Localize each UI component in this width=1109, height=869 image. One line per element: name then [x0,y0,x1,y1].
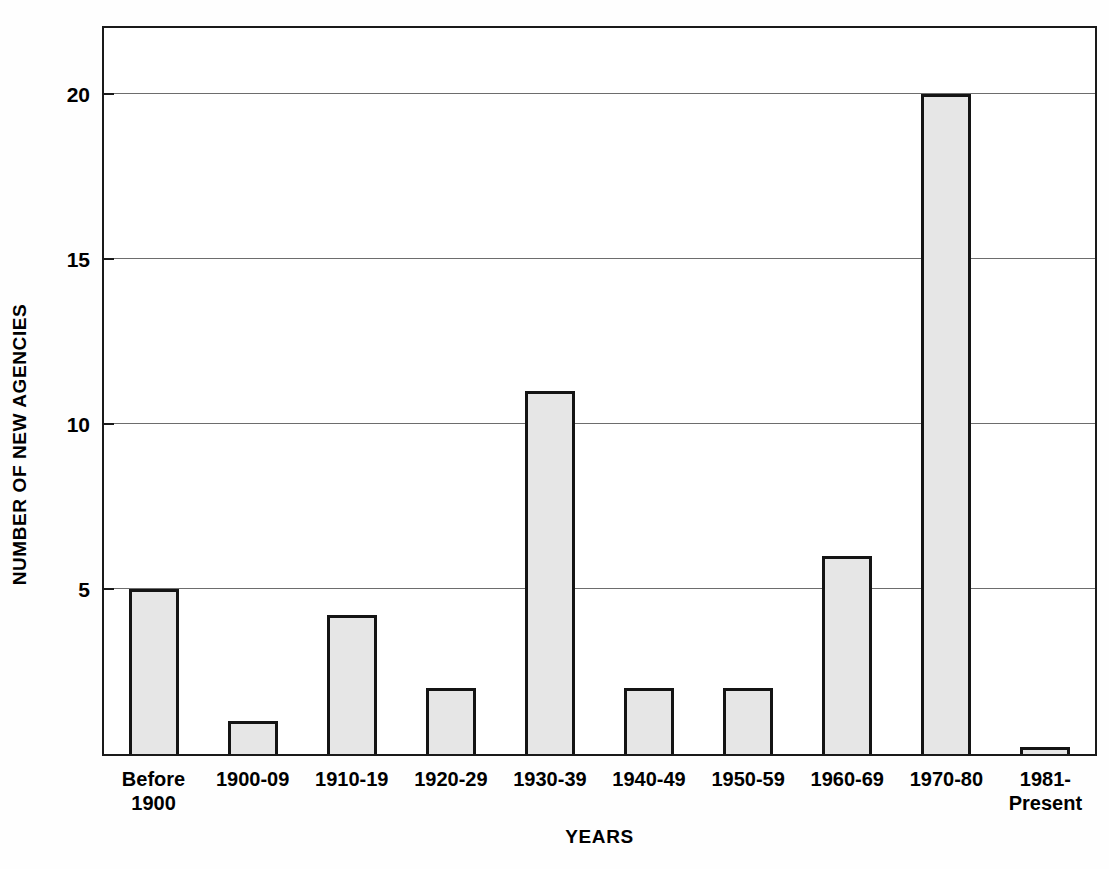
bar [624,688,674,754]
x-tick-label: 1920-29 [394,768,507,792]
bar [723,688,773,754]
bar [327,615,377,754]
x-tick-label: 1960-69 [791,768,904,792]
y-tick-label: 20 [30,84,90,105]
bars-group [104,28,1095,754]
plot-area [102,26,1097,756]
x-axis-title: YEARS [102,826,1097,848]
plot-inner [104,28,1095,754]
bar [426,688,476,754]
bar [921,94,971,754]
x-tick-label: 1950-59 [692,768,805,792]
bar [1020,747,1070,754]
x-tick-label: Before 1900 [97,768,210,815]
y-tick-label: 15 [30,249,90,270]
x-tick-label: 1930-39 [493,768,606,792]
x-tick-label: 1970-80 [890,768,1003,792]
bar-chart-figure: NUMBER OF NEW AGENCIES 5101520 Before 19… [0,0,1109,869]
x-tick-label: 1981- Present [989,768,1102,815]
bar [525,391,575,754]
y-tick-mark [102,423,114,425]
bar [228,721,278,754]
y-tick-mark [102,588,114,590]
y-axis-title: NUMBER OF NEW AGENCIES [0,0,40,869]
x-tick-label: 1910-19 [295,768,408,792]
x-axis-title-label: YEARS [565,826,633,847]
x-tick-label: 1900-09 [196,768,309,792]
y-tick-mark [102,93,114,95]
y-tick-mark [102,258,114,260]
bar [129,589,179,754]
x-tick-label: 1940-49 [593,768,706,792]
y-axis-title-label: NUMBER OF NEW AGENCIES [9,304,31,586]
y-tick-label: 5 [30,579,90,600]
y-tick-label: 10 [30,414,90,435]
bar [822,556,872,754]
